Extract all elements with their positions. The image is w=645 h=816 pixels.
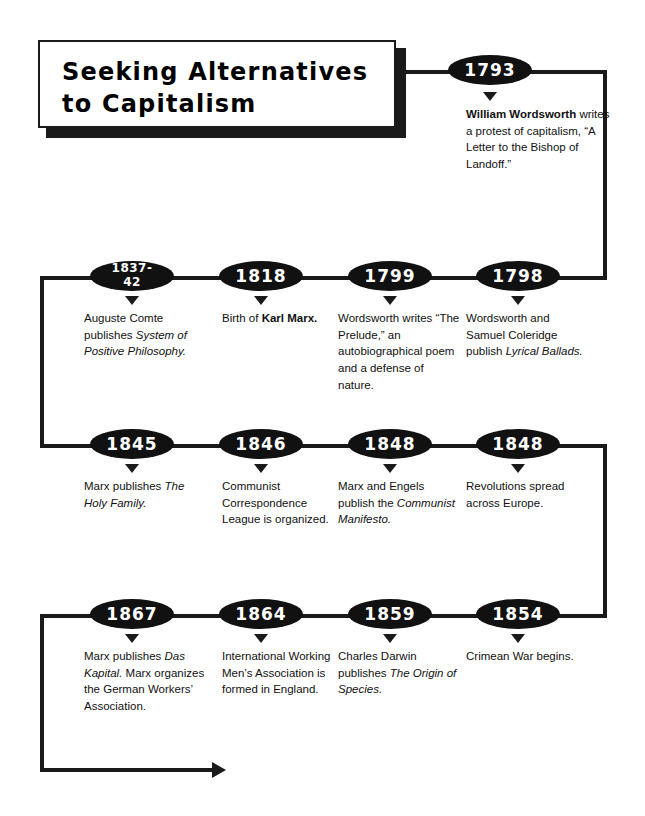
year-oval-1848-revolutions[interactable]: 1848 — [476, 429, 560, 459]
timeline-segment-right-down-2 — [603, 444, 607, 618]
marker-triangle-1854 — [511, 634, 525, 643]
entry-1845: Marx publishes The Holy Family. — [84, 478, 208, 511]
year-oval-1867[interactable]: 1867 — [90, 599, 174, 629]
year-oval-1859[interactable]: 1859 — [348, 599, 432, 629]
marker-triangle-1848-manifesto — [383, 464, 397, 473]
timeline-segment-left-down-1 — [40, 276, 44, 448]
year-oval-1845[interactable]: 1845 — [90, 429, 174, 459]
entry-1846: Communist Correspondence League is organ… — [222, 478, 346, 528]
title-line-1: Seeking Alternatives — [62, 58, 368, 86]
entry-1798-italic: Lyrical Ballads. — [506, 345, 583, 357]
entry-1793-bold: William Wordsworth — [466, 108, 576, 120]
page-title: Seeking Alternativesto Capitalism — [62, 56, 382, 121]
entry-1798: Wordsworth and Samuel Coleridge publish … — [466, 310, 590, 360]
timeline-segment-right-down-1 — [603, 70, 607, 280]
year-oval-1818[interactable]: 1818 — [219, 261, 303, 291]
marker-triangle-1846 — [254, 464, 268, 473]
entry-1818-pre: Birth of — [222, 312, 262, 324]
year-oval-1837-42[interactable]: 1837- 42 — [90, 261, 174, 291]
entry-1845-pre: Marx publishes — [84, 480, 165, 492]
marker-triangle-1818 — [254, 296, 268, 305]
marker-triangle-1837 — [125, 296, 139, 305]
timeline-arrowhead-icon — [212, 762, 226, 778]
year-oval-1846[interactable]: 1846 — [219, 429, 303, 459]
title-line-2: to Capitalism — [62, 90, 257, 118]
entry-1799: Wordsworth writes “The Prelude,” an auto… — [338, 310, 462, 393]
marker-triangle-1867 — [125, 634, 139, 643]
marker-triangle-1845 — [125, 464, 139, 473]
entry-1848-manifesto: Marx and Engels publish the Communist Ma… — [338, 478, 462, 528]
entry-1793: William Wordsworth writes a protest of c… — [466, 106, 616, 173]
marker-triangle-1848-revolutions — [511, 464, 525, 473]
entry-1818: Birth of Karl Marx. — [222, 310, 346, 327]
entry-1818-bold: Karl Marx. — [262, 312, 318, 324]
year-oval-1848-manifesto[interactable]: 1848 — [348, 429, 432, 459]
year-oval-1799[interactable]: 1799 — [348, 261, 432, 291]
year-oval-1854[interactable]: 1854 — [476, 599, 560, 629]
timeline-terminal-line — [40, 768, 216, 772]
entry-1867: Marx publishes Das Kapital. Marx organiz… — [84, 648, 208, 715]
timeline-segment-left-down-2 — [40, 614, 44, 772]
entry-1848-revolutions: Revolutions spread across Europe. — [466, 478, 590, 511]
year-oval-1798[interactable]: 1798 — [476, 261, 560, 291]
year-oval-1864[interactable]: 1864 — [219, 599, 303, 629]
entry-1867-pre: Marx publishes — [84, 650, 165, 662]
marker-triangle-1864 — [254, 634, 268, 643]
year-oval-1793[interactable]: 1793 — [448, 55, 532, 85]
entry-1859: Charles Darwin publishes The Origin of S… — [338, 648, 462, 698]
title-box: Seeking Alternativesto Capitalism — [38, 40, 396, 128]
marker-triangle-1859 — [383, 634, 397, 643]
marker-triangle-1793 — [483, 92, 497, 101]
marker-triangle-1798 — [511, 296, 525, 305]
marker-triangle-1799 — [383, 296, 397, 305]
entry-1864: International Working Men’s Association … — [222, 648, 346, 698]
entry-1837-42: Auguste Comte publishes System of Positi… — [84, 310, 208, 360]
entry-1854: Crimean War begins. — [466, 648, 616, 665]
